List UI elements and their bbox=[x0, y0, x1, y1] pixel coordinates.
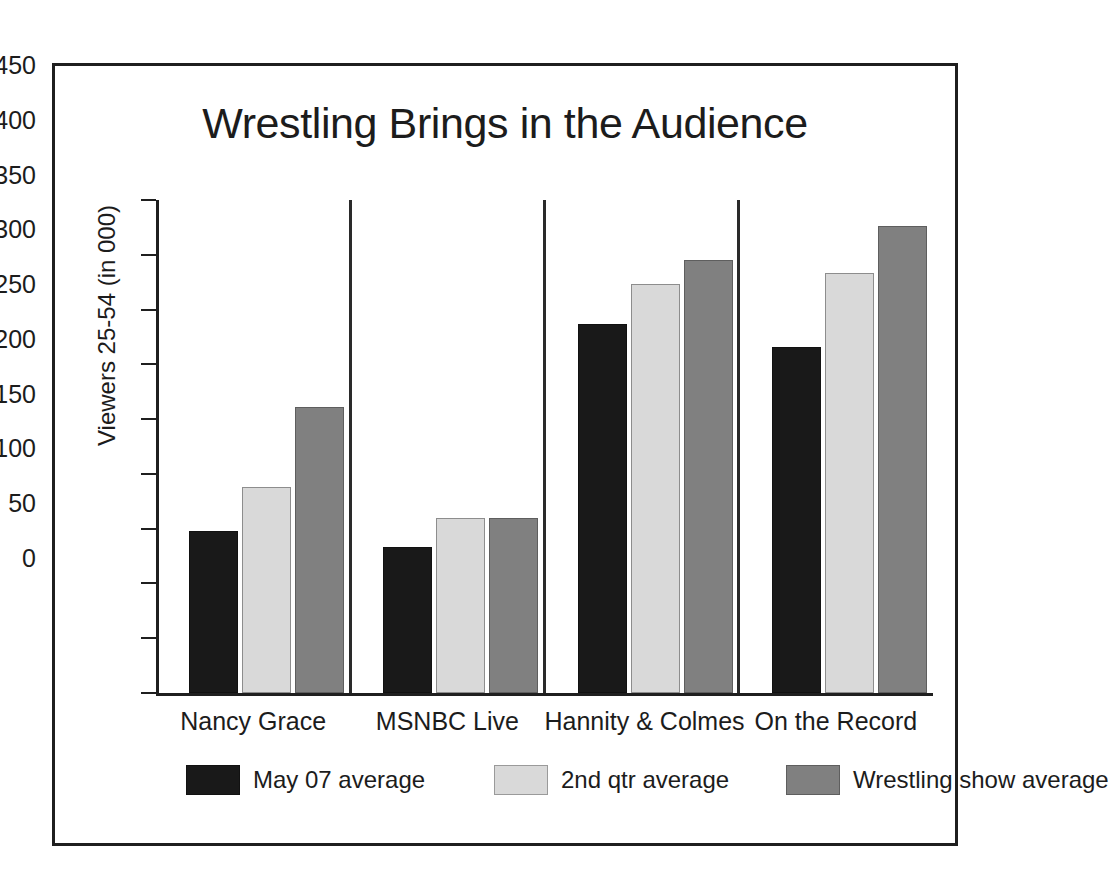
y-axis-tick-label: 400 bbox=[0, 108, 36, 133]
bar bbox=[242, 487, 291, 693]
y-axis-tick-label: 50 bbox=[0, 491, 36, 516]
bar bbox=[631, 284, 680, 693]
y-axis-tick-label: 300 bbox=[0, 217, 36, 242]
bar bbox=[578, 324, 627, 693]
legend-item[interactable]: 2nd qtr average bbox=[494, 763, 729, 797]
light-gray-swatch bbox=[494, 765, 548, 795]
legend-label: 2nd qtr average bbox=[561, 766, 729, 794]
y-axis-tick bbox=[141, 199, 156, 201]
bar bbox=[825, 273, 874, 693]
chart-legend: May 07 average2nd qtr averageWrestling s… bbox=[156, 763, 956, 803]
bar bbox=[684, 260, 733, 693]
group-separator-line bbox=[349, 200, 352, 693]
bar bbox=[295, 407, 344, 693]
plot-area bbox=[156, 200, 933, 693]
chart-title: Wrestling Brings in the Audience bbox=[55, 99, 955, 148]
y-axis-tick-label: 250 bbox=[0, 272, 36, 297]
group-separator-line bbox=[737, 200, 740, 693]
bar bbox=[878, 226, 927, 693]
legend-item[interactable]: Wrestling show average bbox=[786, 763, 1109, 797]
group-separator-line bbox=[543, 200, 546, 693]
chart-frame: Wrestling Brings in the Audience Viewers… bbox=[52, 63, 958, 846]
bar bbox=[383, 547, 432, 693]
y-axis-tick-label: 100 bbox=[0, 436, 36, 461]
legend-item[interactable]: May 07 average bbox=[186, 763, 425, 797]
y-axis-tick-label: 350 bbox=[0, 163, 36, 188]
y-axis-tick bbox=[141, 473, 156, 475]
x-axis-category-labels: Nancy GraceMSNBC LiveHannity & ColmesOn … bbox=[156, 706, 933, 742]
y-axis-tick-label: 0 bbox=[0, 546, 36, 571]
black-swatch bbox=[186, 765, 240, 795]
x-axis-category-label: MSNBC Live bbox=[350, 706, 544, 736]
y-axis-tick-label: 200 bbox=[0, 327, 36, 352]
y-axis-tick bbox=[141, 692, 156, 694]
bar bbox=[772, 347, 821, 693]
y-axis-tick-labels: 050100150200250300350400450 bbox=[0, 66, 36, 559]
x-axis-line bbox=[156, 693, 933, 696]
bar bbox=[189, 531, 238, 693]
y-axis-tick-label: 150 bbox=[0, 382, 36, 407]
legend-label: May 07 average bbox=[253, 766, 425, 794]
y-axis-tick bbox=[141, 309, 156, 311]
x-axis-category-label: Hannity & Colmes bbox=[545, 706, 739, 736]
y-axis-tick bbox=[141, 637, 156, 639]
y-axis-tick bbox=[141, 254, 156, 256]
y-axis-tick-label: 450 bbox=[0, 53, 36, 78]
y-axis-tick bbox=[141, 418, 156, 420]
bar bbox=[436, 518, 485, 693]
y-axis-tick bbox=[141, 582, 156, 584]
y-axis-tick bbox=[141, 363, 156, 365]
y-axis-line bbox=[156, 200, 159, 693]
legend-label: Wrestling show average bbox=[853, 766, 1109, 794]
y-axis-tick bbox=[141, 528, 156, 530]
bar bbox=[489, 518, 538, 693]
y-axis-title: Viewers 25-54 (in 000) bbox=[93, 205, 121, 446]
x-axis-category-label: On the Record bbox=[739, 706, 933, 736]
x-axis-category-label: Nancy Grace bbox=[156, 706, 350, 736]
dark-gray-swatch bbox=[786, 765, 840, 795]
